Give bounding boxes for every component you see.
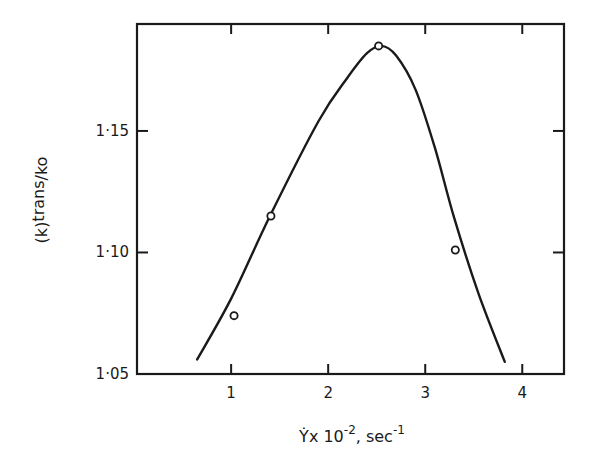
data-point-marker — [375, 42, 382, 49]
chart: 12341·051·101·15 Ẏx 10-2, sec-1 (k)trans… — [0, 0, 590, 462]
y-tick-label: 1·15 — [96, 122, 129, 140]
fit-curve-path — [197, 46, 505, 362]
data-point-marker — [230, 312, 237, 319]
data-point-marker — [267, 212, 274, 219]
y-tick-label: 1·10 — [96, 243, 129, 261]
y-tick-label: 1·05 — [96, 365, 129, 383]
data-point-marker — [452, 246, 459, 253]
y-axis-label: (k)trans/ko — [29, 157, 51, 244]
axis-ticks — [137, 24, 564, 374]
x-tick-label: 2 — [323, 384, 333, 402]
x-axis-label: Ẏx 10-2, sec-1 — [298, 423, 405, 446]
x-tick-label: 1 — [226, 384, 236, 402]
x-tick-label: 3 — [420, 384, 430, 402]
x-tick-label: 4 — [517, 384, 527, 402]
data-points — [230, 42, 458, 319]
plot-frame — [137, 24, 564, 374]
tick-labels: 12341·051·101·15 — [96, 122, 527, 402]
fitted-curve — [197, 46, 505, 362]
